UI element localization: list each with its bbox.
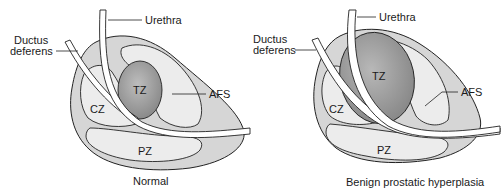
pz-label: PZ xyxy=(138,145,152,157)
tz-label: TZ xyxy=(372,70,386,82)
bph-prostate-diagram: Urethra Ductus deferens TZ CZ PZ AFS Ben… xyxy=(253,10,500,188)
ductus-label-line2: deferens xyxy=(253,44,296,56)
afs-label: AFS xyxy=(209,88,230,100)
urethra-label: Urethra xyxy=(145,14,183,26)
cz-label: CZ xyxy=(329,103,344,115)
pz-label: PZ xyxy=(377,144,391,156)
cz-label: CZ xyxy=(90,103,105,115)
caption-normal: Normal xyxy=(133,175,168,187)
afs-label: AFS xyxy=(461,86,482,98)
caption-bph: Benign prostatic hyperplasia xyxy=(346,176,485,188)
tz-label: TZ xyxy=(133,84,147,96)
ductus-label-line2: deferens xyxy=(10,45,53,57)
normal-prostate-diagram: Urethra Ductus deferens TZ CZ PZ AFS Nor… xyxy=(10,10,250,187)
urethra-label: Urethra xyxy=(379,11,417,23)
